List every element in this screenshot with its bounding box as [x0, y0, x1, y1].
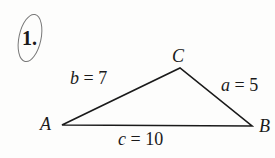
problem-number: 1. — [22, 27, 37, 50]
vertex-b-label: B — [259, 116, 270, 137]
vertex-a-label: A — [40, 114, 51, 135]
side-a-label: a = 5 — [221, 75, 258, 96]
side-c-label: c = 10 — [118, 129, 163, 150]
side-b-label: b = 7 — [70, 68, 107, 89]
triangle-diagram: 1. C A B b = 7 a = 5 c = 10 — [0, 0, 275, 158]
vertex-c-label: C — [172, 46, 184, 67]
